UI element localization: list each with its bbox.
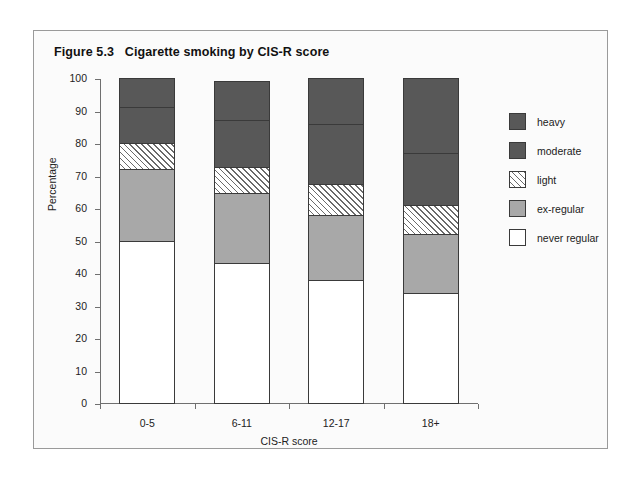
legend-label: moderate — [537, 145, 581, 157]
x-axis-tick — [195, 404, 196, 409]
legend-item-moderate[interactable]: moderate — [509, 136, 604, 165]
y-axis-tick: 70 — [95, 177, 100, 178]
legend-swatch-never-regular — [509, 229, 526, 246]
y-axis-tick-label: 20 — [75, 332, 87, 344]
legend-label: heavy — [537, 116, 565, 128]
bar-segment-heavy — [308, 78, 364, 125]
y-axis-tick: 80 — [95, 144, 100, 145]
bar-segment-heavy — [119, 78, 175, 108]
bar-segment-light — [403, 205, 459, 235]
x-category-label-18+: 18+ — [384, 417, 479, 429]
y-axis-tick: 40 — [95, 274, 100, 275]
bar-segment-moderate — [403, 153, 459, 206]
y-axis-tick-label: 30 — [75, 300, 87, 312]
bar-segment-never-regular — [308, 280, 364, 405]
y-axis-tick-label: 80 — [75, 137, 87, 149]
y-axis-tick: 100 — [95, 79, 100, 80]
bar-segment-heavy — [214, 81, 270, 121]
y-axis-tick-label: 60 — [75, 202, 87, 214]
bar-segment-light — [119, 143, 175, 170]
y-axis-tick-label: 0 — [81, 397, 87, 409]
plot-area: 0102030405060708090100 0-56-1112-1718+ C… — [100, 79, 478, 404]
x-axis-title: CIS-R score — [100, 435, 478, 447]
y-axis-tick: 60 — [95, 209, 100, 210]
bar-segment-ex-regular — [119, 169, 175, 242]
y-axis-tick: 10 — [95, 372, 100, 373]
bar-segment-ex-regular — [214, 193, 270, 264]
x-category-label-12-17: 12-17 — [289, 417, 384, 429]
legend-label: light — [537, 174, 556, 186]
y-axis-tick: 90 — [95, 112, 100, 113]
legend-swatch-light — [509, 171, 526, 188]
x-axis-tick — [289, 404, 290, 409]
y-axis-tick-label: 100 — [69, 72, 87, 84]
bar-segment-ex-regular — [403, 234, 459, 294]
y-axis-tick-label: 40 — [75, 267, 87, 279]
figure-title: Figure 5.3 Cigarette smoking by CIS-R sc… — [54, 45, 329, 59]
bar-segment-moderate — [214, 120, 270, 168]
y-axis-line — [100, 79, 101, 404]
legend-label: never regular — [537, 232, 599, 244]
y-axis-tick: 20 — [95, 339, 100, 340]
bar-segment-ex-regular — [308, 215, 364, 281]
y-axis-tick-label: 10 — [75, 365, 87, 377]
legend-swatch-ex-regular — [509, 200, 526, 217]
bar-segment-moderate — [308, 124, 364, 185]
legend-swatch-moderate — [509, 142, 526, 159]
bar-segment-never-regular — [403, 293, 459, 405]
y-axis-tick: 50 — [95, 242, 100, 243]
legend-item-heavy[interactable]: heavy — [509, 107, 604, 136]
legend-item-light[interactable]: light — [509, 165, 604, 194]
x-category-label-6-11: 6-11 — [195, 417, 290, 429]
y-axis-title: Percentage — [46, 157, 58, 211]
y-axis-tick-label: 70 — [75, 170, 87, 182]
bar-segment-light — [308, 184, 364, 216]
y-axis-tick-label: 90 — [75, 105, 87, 117]
legend-label: ex-regular — [537, 203, 584, 215]
x-category-label-0-5: 0-5 — [100, 417, 195, 429]
bar-segment-moderate — [119, 107, 175, 144]
legend-item-ex-regular[interactable]: ex-regular — [509, 194, 604, 223]
bar-segment-never-regular — [214, 263, 270, 404]
bar-segment-light — [214, 167, 270, 194]
bar-segment-heavy — [403, 78, 459, 154]
x-axis-tick — [384, 404, 385, 409]
y-axis-tick: 30 — [95, 307, 100, 308]
bar-segment-never-regular — [119, 241, 175, 405]
chart-legend: heavymoderatelightex-regularnever regula… — [509, 107, 604, 252]
legend-item-never-regular[interactable]: never regular — [509, 223, 604, 252]
legend-swatch-heavy — [509, 113, 526, 130]
x-axis-tick — [478, 404, 479, 409]
x-axis-tick — [100, 404, 101, 409]
y-axis-tick-label: 50 — [75, 235, 87, 247]
figure-panel: Figure 5.3 Cigarette smoking by CIS-R sc… — [33, 30, 608, 449]
